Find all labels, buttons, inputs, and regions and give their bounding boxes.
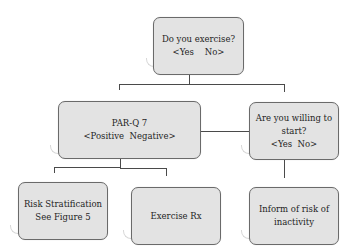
node-text: See Figure 5 bbox=[35, 211, 90, 224]
node-text: inactivity bbox=[274, 216, 314, 229]
connector-parq-branch-left bbox=[54, 167, 121, 168]
node-exercise-rx: Exercise Rx bbox=[131, 187, 221, 245]
connector-to-exercise-rx bbox=[166, 168, 167, 176]
node-risk-stratification: Risk Stratification See Figure 5 bbox=[18, 182, 108, 240]
node-text: PAR-Q 7 bbox=[112, 117, 147, 130]
node-text: start? bbox=[282, 125, 307, 138]
connector-top-down bbox=[189, 75, 190, 84]
connector-willing-down bbox=[284, 160, 285, 178]
connector-parq-branch-right bbox=[120, 168, 167, 169]
node-options: <Positive Negative> bbox=[83, 130, 175, 143]
connector-willing-to-parq bbox=[201, 131, 250, 132]
node-options: <Yes No> bbox=[271, 138, 317, 151]
node-text: Do you exercise? bbox=[162, 33, 235, 46]
node-text: Exercise Rx bbox=[151, 210, 202, 223]
connector-to-risk bbox=[54, 167, 55, 173]
node-willing-to-start: Are you willing to start? <Yes No> bbox=[249, 102, 339, 160]
connector-to-willing bbox=[284, 84, 285, 92]
node-inform-risk: Inform of risk of inactivity bbox=[249, 187, 339, 245]
node-text: Are you willing to bbox=[256, 112, 332, 125]
node-text: Inform of risk of bbox=[259, 203, 329, 216]
node-text: Risk Stratification bbox=[24, 198, 102, 211]
connector-top-branch bbox=[119, 84, 285, 85]
node-do-you-exercise: Do you exercise? <Yes No> bbox=[153, 17, 244, 75]
node-parq: PAR-Q 7 <Positive Negative> bbox=[58, 101, 201, 159]
connector-to-parq bbox=[119, 84, 120, 90]
node-options: <Yes No> bbox=[173, 46, 225, 59]
